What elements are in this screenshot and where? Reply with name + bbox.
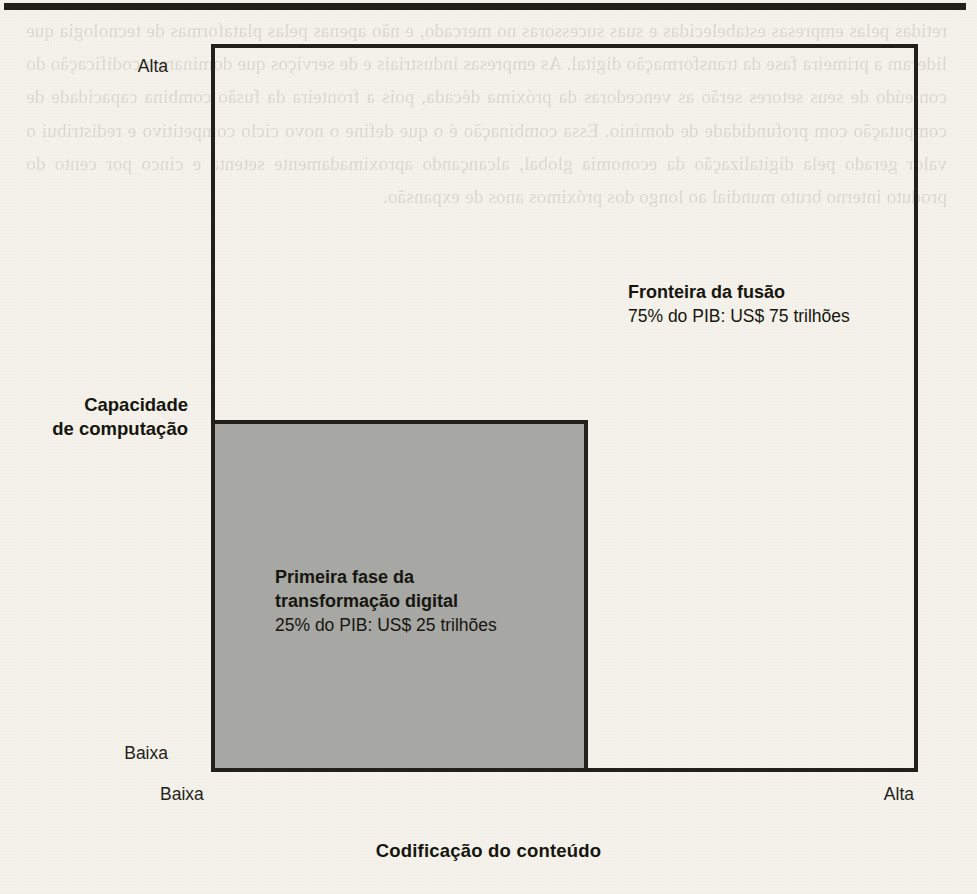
y-axis-title-line2: de computação	[52, 417, 188, 441]
annotation-fusion-frontier-title: Fronteira da fusão	[628, 280, 850, 304]
y-axis-tick-low: Baixa	[124, 743, 168, 764]
y-axis-tick-high: Alta	[138, 56, 168, 77]
x-axis-tick-low: Baixa	[160, 784, 204, 805]
annotation-first-phase-title: Primeira fase da transformação digital	[275, 565, 497, 613]
annotation-first-phase: Primeira fase da transformação digital 2…	[275, 565, 497, 637]
y-axis-title: Capacidade de computação	[52, 393, 188, 441]
x-axis-title: Codificação do conteúdo	[0, 840, 977, 862]
figure-page: retidas pelas empresas estabelecidas e s…	[0, 0, 977, 894]
annotation-fusion-frontier-subtitle: 75% do PIB: US$ 75 trilhões	[628, 304, 850, 328]
x-axis-tick-high: Alta	[884, 784, 914, 805]
y-axis-title-line1: Capacidade	[52, 393, 188, 417]
annotation-first-phase-subtitle: 25% do PIB: US$ 25 trilhões	[275, 613, 497, 637]
top-horizontal-rule	[4, 3, 966, 10]
annotation-fusion-frontier: Fronteira da fusão 75% do PIB: US$ 75 tr…	[628, 280, 850, 328]
